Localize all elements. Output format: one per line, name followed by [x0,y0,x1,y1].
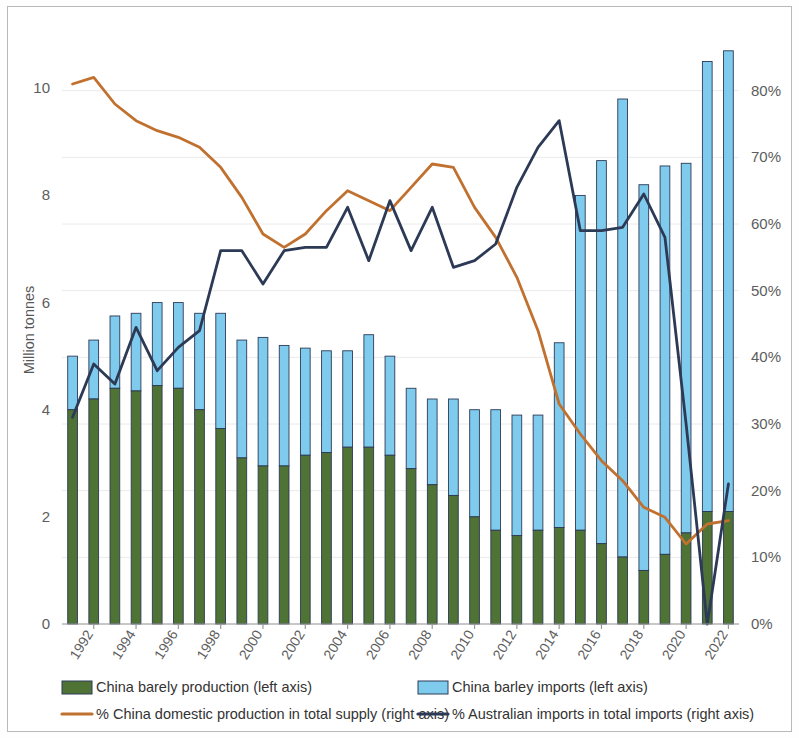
bar-imports [554,343,564,528]
x-axis-tick: 2014 [532,627,562,662]
x-axis-tick: 2016 [574,627,604,662]
bar-production [68,410,78,624]
legend-label: % China domestic production in total sup… [96,706,449,722]
x-axis-tick: 2022 [701,627,731,662]
right-axis-tick-label: 60% [751,215,781,232]
x-axis-tick: 2018 [616,627,646,662]
x-axis-tick-label: 2008 [405,627,435,662]
x-axis-tick-label: 2004 [320,627,350,662]
x-axis-tick: 2012 [489,627,519,662]
legend-label: China barley imports (left axis) [452,679,648,695]
bar-production [237,458,247,624]
left-axis-tick-label: 8 [42,186,50,203]
bar-production [449,495,459,624]
left-axis-tick-label: 10 [33,79,50,96]
x-axis-tick-label: 2012 [489,627,519,662]
y-axis-label: Million tonnes [21,286,37,375]
x-axis-tick-label: 2006 [362,627,392,662]
x-axis-tick-label: 2018 [616,627,646,662]
bar-production [300,455,310,624]
bar-imports [258,337,268,466]
x-axis-tick: 2000 [235,627,265,662]
right-axis-tick-label: 40% [751,348,781,365]
bar-production [406,469,416,624]
legend-label: China barely production (left axis) [96,679,312,695]
bar-production [639,570,649,624]
bar-imports [618,99,628,557]
x-axis-tick-label: 1998 [193,627,223,662]
legend-item[interactable]: % China domestic production in total sup… [62,706,449,722]
bars-group [68,51,734,624]
barley-supply-chart: 0246810 0%10%20%30%40%50%60%70%80% 19921… [0,0,799,738]
x-axis-ticks: 1992199419961998200020022004200620082010… [66,624,731,662]
bar-imports [575,195,585,530]
bar-imports [660,166,670,554]
right-axis-tick-label: 30% [751,415,781,432]
legend-item[interactable]: China barely production (left axis) [62,679,312,695]
bar-production [216,428,226,624]
x-axis-tick-label: 2000 [235,627,265,662]
bar-production [575,530,585,624]
x-axis-tick: 2010 [447,627,477,662]
bar-imports [343,351,353,447]
x-axis-tick-label: 2016 [574,627,604,662]
bar-imports [216,313,226,428]
bar-imports [131,313,141,391]
bar-production [173,388,183,624]
bar-production [660,554,670,624]
bar-imports [639,185,649,571]
bar-production [597,544,607,624]
bar-imports [68,356,78,410]
bar-production [427,485,437,624]
legend-label: % Australian imports in total imports (r… [452,706,754,722]
x-axis-tick-label: 2002 [278,627,308,662]
chart-page: 0246810 0%10%20%30%40%50%60%70%80% 19921… [0,0,799,738]
bar-production [491,530,501,624]
bar-imports [681,163,691,533]
right-axis-tick-label: 80% [751,82,781,99]
bar-imports [364,335,374,448]
line-series [73,121,729,624]
bar-production [681,533,691,624]
bar-production [258,466,268,624]
chart-plot-area: 0246810 0%10%20%30%40%50%60%70%80% 19921… [0,0,799,738]
lines-group [73,77,729,624]
bar-production [195,410,205,624]
x-axis-tick: 1994 [109,627,139,662]
x-axis-tick: 2020 [659,627,689,662]
legend-item[interactable]: China barley imports (left axis) [418,679,648,695]
bar-production [554,528,564,624]
bar-production [279,466,289,624]
bar-imports [322,351,332,453]
bar-production [364,447,374,624]
bar-production [512,536,522,624]
x-axis-tick-label: 1996 [151,627,181,662]
gridlines-group [62,91,739,624]
x-axis-tick-label: 2022 [701,627,731,662]
bar-production [618,557,628,624]
legend-swatch-icon [418,681,448,694]
bar-production [533,530,543,624]
right-axis-ticks: 0%10%20%30%40%50%60%70%80% [751,82,781,632]
bar-production [470,517,480,624]
bar-imports [470,410,480,517]
x-axis-tick-label: 2014 [532,627,562,662]
right-axis-tick-label: 20% [751,482,781,499]
bar-production [343,447,353,624]
left-axis-tick-label: 0 [42,615,50,632]
x-axis-tick-label: 1994 [109,627,139,662]
right-axis-tick-label: 0% [751,615,773,632]
x-axis-tick: 1996 [151,627,181,662]
chart-legend: China barely production (left axis)China… [62,679,754,722]
bar-imports [427,399,437,485]
x-axis-tick-label: 1992 [66,627,96,662]
x-axis-tick: 2004 [320,627,350,662]
line-series [73,77,729,544]
bar-imports [385,356,395,455]
x-axis-tick: 2008 [405,627,435,662]
legend-item[interactable]: % Australian imports in total imports (r… [418,706,754,722]
x-axis-tick: 2006 [362,627,392,662]
bar-imports [279,345,289,466]
bar-production [131,391,141,624]
right-axis-tick-label: 70% [751,148,781,165]
